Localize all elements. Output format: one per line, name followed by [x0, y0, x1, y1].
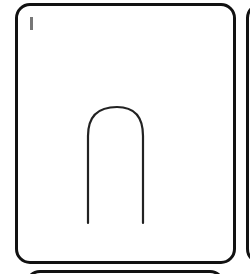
card-bottom[interactable]	[25, 270, 225, 274]
arch-icon	[18, 6, 239, 267]
card-main[interactable]	[15, 3, 236, 264]
card-right[interactable]	[246, 3, 250, 264]
